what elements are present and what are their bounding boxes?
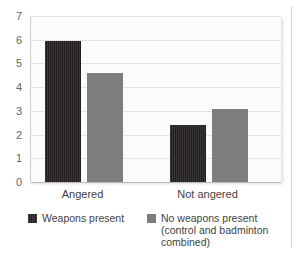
axis-baseline [31, 182, 281, 183]
y-tick-label: 5 [16, 58, 22, 69]
gray-swatch [147, 214, 156, 223]
y-tick-label: 2 [16, 129, 22, 140]
dark-swatch [28, 214, 37, 223]
legend-label-1: No weapons present (control and badminto… [161, 212, 287, 248]
gridline [31, 16, 281, 17]
y-tick-label: 0 [16, 177, 22, 188]
legend-label-0: Weapons present [42, 212, 124, 224]
plot-area [30, 16, 281, 182]
x-axis-label-not-angered: Not angered [177, 188, 238, 201]
y-tick-label: 3 [16, 105, 22, 116]
y-tick-label: 4 [16, 82, 22, 93]
x-axis-label-angered: Angered [62, 188, 104, 201]
bar-not-angered-series1 [212, 109, 248, 183]
y-tick-label: 6 [16, 34, 22, 45]
bar-angered-series0 [45, 41, 81, 182]
y-tick-label: 1 [16, 153, 22, 164]
bar-angered-series1 [87, 73, 123, 182]
bar-chart-figure: 01234567 AngeredNot angered Weapons pres… [0, 0, 302, 254]
legend-entry-1: No weapons present (control and badminto… [147, 212, 287, 248]
bar-not-angered-series0 [170, 125, 206, 182]
legend-entry-0: Weapons present [28, 212, 148, 224]
plot-wrapper: 01234567 AngeredNot angered [0, 0, 286, 200]
y-tick-label: 7 [16, 11, 22, 22]
y-axis: 01234567 [0, 0, 28, 200]
x-axis-category-labels: AngeredNot angered [30, 188, 280, 204]
right-border-rule [291, 6, 292, 248]
chart-legend: Weapons presentNo weapons present (contr… [28, 212, 286, 252]
